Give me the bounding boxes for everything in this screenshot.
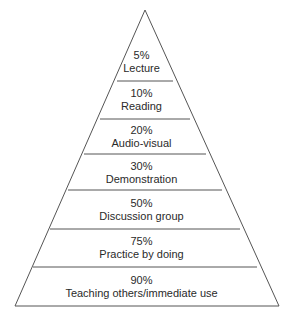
level-percent: 30% [0,160,283,173]
level-percent: 90% [0,274,283,287]
level-teaching-others: 90% Teaching others/immediate use [0,274,283,300]
level-label: Practice by doing [0,248,283,261]
level-label: Discussion group [0,210,283,223]
level-percent: 10% [0,87,283,100]
level-practice-by-doing: 75% Practice by doing [0,235,283,261]
level-audio-visual: 20% Audio-visual [0,124,283,150]
level-label: Demonstration [0,173,283,186]
level-lecture: 5% Lecture [0,49,283,75]
level-percent: 50% [0,197,283,210]
level-discussion-group: 50% Discussion group [0,197,283,223]
level-label: Audio-visual [0,137,283,150]
level-demonstration: 30% Demonstration [0,160,283,186]
level-reading: 10% Reading [0,87,283,113]
level-label: Reading [0,100,283,113]
level-percent: 20% [0,124,283,137]
level-label: Teaching others/immediate use [0,287,283,300]
level-percent: 75% [0,235,283,248]
level-percent: 5% [0,49,283,62]
level-label: Lecture [0,62,283,75]
